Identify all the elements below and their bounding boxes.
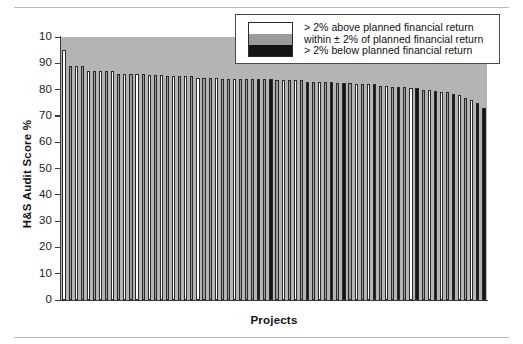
bar <box>288 80 291 300</box>
legend-swatch-below <box>249 45 292 56</box>
y-axis-title: H&S Audit Score % <box>21 84 33 264</box>
bar <box>184 76 187 300</box>
bar <box>470 100 473 300</box>
bar <box>391 87 394 300</box>
bar-series <box>61 37 487 300</box>
bar <box>257 79 260 300</box>
bar <box>227 79 230 300</box>
bar <box>166 76 169 300</box>
scan-rule-top <box>14 7 509 8</box>
bar <box>318 82 321 300</box>
bar <box>117 74 120 300</box>
bar <box>160 75 163 300</box>
bar <box>93 71 96 300</box>
bar <box>385 86 388 300</box>
bar <box>154 75 157 300</box>
bar <box>422 90 425 300</box>
bar <box>190 76 193 300</box>
y-axis-tick <box>55 168 60 169</box>
bar <box>172 76 175 300</box>
bar <box>105 71 108 300</box>
bar <box>178 76 181 300</box>
y-axis-tick <box>55 37 60 38</box>
bar <box>306 82 309 300</box>
y-axis-tick-label: 10 <box>6 31 52 43</box>
bar <box>355 84 358 300</box>
legend-label-below: > 2% below planned financial return <box>304 45 494 57</box>
y-axis-tick-label: 90 <box>6 58 52 70</box>
bar <box>294 80 297 300</box>
bar <box>312 82 315 300</box>
bar <box>446 92 449 300</box>
bar <box>69 66 72 300</box>
scan-rule-bottom <box>14 337 509 338</box>
bar <box>482 108 485 300</box>
bar <box>348 83 351 300</box>
bar <box>209 78 212 300</box>
bar <box>458 95 461 300</box>
bar <box>99 71 102 300</box>
bar <box>87 71 90 300</box>
y-axis-tick-label: 10 <box>6 268 52 280</box>
bar <box>215 78 218 300</box>
bar <box>135 74 138 300</box>
bar <box>440 92 443 300</box>
bar <box>202 78 205 300</box>
bar <box>123 74 126 300</box>
bar <box>196 78 199 300</box>
y-axis-tick <box>55 89 60 90</box>
bar <box>221 79 224 300</box>
y-axis-tick <box>55 247 60 248</box>
y-axis-tick <box>55 300 60 301</box>
bar <box>251 79 254 300</box>
x-axis-line <box>60 300 488 301</box>
bar <box>263 79 266 300</box>
bar <box>142 74 145 300</box>
legend-labels: > 2% above planned financial return with… <box>304 22 494 57</box>
bar <box>361 84 364 300</box>
bar <box>275 80 278 300</box>
bar <box>75 66 78 300</box>
bar <box>239 79 242 300</box>
bar <box>330 82 333 300</box>
bar <box>452 94 455 300</box>
bar <box>245 79 248 300</box>
bar <box>233 79 236 300</box>
bar <box>379 86 382 300</box>
legend-swatch-box <box>248 22 293 57</box>
bar <box>464 98 467 301</box>
bar <box>409 88 412 300</box>
plot-area <box>61 37 487 300</box>
figure-container: 109080706050403020100 H&S Audit Score % … <box>0 0 523 344</box>
y-axis-tick <box>55 142 60 143</box>
legend-swatch-within <box>249 34 292 45</box>
legend-swatch-above <box>249 23 292 34</box>
bar <box>367 84 370 300</box>
bar <box>111 71 114 300</box>
bar <box>81 66 84 300</box>
bar <box>373 84 376 300</box>
bar <box>300 80 303 300</box>
bar <box>324 82 327 300</box>
legend: > 2% above planned financial return with… <box>235 14 500 64</box>
bar <box>415 88 418 300</box>
y-axis-tick <box>55 273 60 274</box>
bar <box>62 50 65 300</box>
legend-label-above: > 2% above planned financial return <box>304 22 494 34</box>
bar <box>434 91 437 300</box>
bar <box>129 74 132 300</box>
bar <box>269 79 272 300</box>
bar <box>342 83 345 300</box>
x-axis-title: Projects <box>61 314 487 326</box>
bar <box>148 75 151 300</box>
y-axis-tick <box>55 194 60 195</box>
bar <box>428 90 431 300</box>
bar <box>336 83 339 300</box>
bar <box>403 87 406 300</box>
bar <box>397 87 400 300</box>
y-axis-tick <box>55 115 60 116</box>
y-axis-tick <box>55 221 60 222</box>
bar <box>476 103 479 300</box>
bar <box>282 80 285 300</box>
y-axis-tick-label: 0 <box>6 294 52 306</box>
